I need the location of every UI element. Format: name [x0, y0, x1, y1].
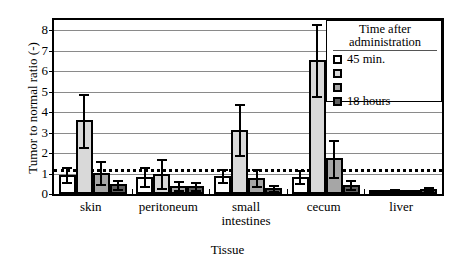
- error-bar-cap: [113, 180, 123, 182]
- error-bar-cap: [140, 167, 150, 169]
- legend-swatch: [333, 55, 342, 64]
- gridline: [54, 133, 442, 134]
- legend-title-line2: administration: [333, 36, 437, 49]
- legend-item-label: 45 min.: [347, 53, 385, 66]
- x-axis-tick-label: peritoneum: [130, 200, 208, 214]
- error-bar-cap: [329, 140, 339, 142]
- x-axis-tick-label: liver: [362, 200, 440, 214]
- error-bar-cap: [312, 24, 322, 26]
- error-bar-cap: [346, 189, 356, 191]
- legend-item: [333, 67, 437, 80]
- x-axis-tick-label: skin: [52, 200, 130, 214]
- y-axis-tick-label: 6: [18, 63, 48, 79]
- error-bar-cap: [373, 193, 383, 195]
- y-axis-tick-label: 2: [18, 145, 48, 161]
- error-bar: [161, 159, 163, 188]
- y-axis-tick-mark: [49, 133, 54, 134]
- x-axis-tick-label: cecum: [285, 200, 363, 214]
- error-bar-cap: [191, 190, 201, 192]
- gridline: [54, 112, 442, 113]
- legend: Time after administration 45 min.18 hour…: [326, 20, 442, 102]
- x-axis-tick-mark: [209, 189, 210, 194]
- y-axis-tick-mark: [49, 153, 54, 154]
- y-axis-tick-mark: [49, 92, 54, 93]
- error-bar-cap: [174, 181, 184, 183]
- error-bar-cap: [407, 192, 417, 194]
- error-bar-cap: [140, 186, 150, 188]
- error-bar-cap: [424, 190, 434, 192]
- y-axis-tick-label: 4: [18, 104, 48, 120]
- error-bar-cap: [62, 167, 72, 169]
- x-axis-title: Tissue: [0, 242, 455, 258]
- legend-swatch: [333, 97, 342, 106]
- error-bar-cap: [157, 188, 167, 190]
- error-bar-cap: [157, 159, 167, 161]
- legend-items: 45 min.18 hours: [333, 53, 437, 108]
- error-bar-cap: [312, 96, 322, 98]
- gridline: [54, 153, 442, 154]
- error-bar: [239, 104, 241, 155]
- y-axis-tick-label: 8: [18, 22, 48, 38]
- error-bar-cap: [235, 155, 245, 157]
- y-axis-tick-label: 7: [18, 43, 48, 59]
- error-bar-cap: [113, 189, 123, 191]
- legend-swatch: [333, 69, 342, 78]
- legend-item: 45 min.: [333, 53, 437, 66]
- legend-item: 18 hours: [333, 95, 437, 108]
- y-axis-tick-label: 1: [18, 166, 48, 182]
- y-axis-tick-label: 3: [18, 125, 48, 141]
- reference-line: [54, 169, 442, 172]
- chart-root: Tumor to normal ratio (-) 012345678 Tiss…: [0, 0, 455, 267]
- error-bar-cap: [252, 186, 262, 188]
- error-bar-cap: [252, 169, 262, 171]
- error-bar-cap: [269, 185, 279, 187]
- error-bar-cap: [79, 147, 89, 149]
- error-bar: [100, 161, 102, 184]
- x-axis-tick-mark: [364, 189, 365, 194]
- y-axis-tick-mark: [49, 112, 54, 113]
- error-bar-cap: [329, 177, 339, 179]
- error-bar: [333, 140, 335, 177]
- legend-title: Time after administration: [333, 23, 437, 51]
- error-bar-cap: [295, 170, 305, 172]
- error-bar-cap: [96, 161, 106, 163]
- legend-item-label: 18 hours: [347, 95, 390, 108]
- error-bar: [144, 167, 146, 185]
- y-axis-tick-mark: [49, 174, 54, 175]
- error-bar: [316, 24, 318, 96]
- error-bar-cap: [191, 182, 201, 184]
- error-bar: [66, 167, 68, 181]
- x-axis-tick-mark: [287, 189, 288, 194]
- x-axis-tick-mark: [132, 189, 133, 194]
- gridline: [54, 174, 442, 175]
- error-bar-cap: [269, 191, 279, 193]
- error-bar-cap: [346, 180, 356, 182]
- y-axis-tick-label: 0: [18, 186, 48, 202]
- error-bar-cap: [79, 94, 89, 96]
- x-axis-tick-label: smallintestines: [207, 200, 285, 228]
- error-bar: [256, 169, 258, 185]
- error-bar-cap: [62, 182, 72, 184]
- legend-swatch: [333, 83, 342, 92]
- error-bar-cap: [218, 182, 228, 184]
- y-axis-tick-mark: [49, 194, 54, 195]
- error-bar-cap: [218, 169, 228, 171]
- y-axis-tick-mark: [49, 51, 54, 52]
- y-axis-tick-mark: [49, 71, 54, 72]
- error-bar-cap: [424, 187, 434, 189]
- error-bar-cap: [174, 190, 184, 192]
- y-axis-tick-label: 5: [18, 84, 48, 100]
- error-bar-cap: [390, 192, 400, 194]
- error-bar-cap: [96, 184, 106, 186]
- error-bar-cap: [235, 104, 245, 106]
- error-bar: [83, 94, 85, 147]
- legend-item: [333, 81, 437, 94]
- error-bar-cap: [295, 183, 305, 185]
- y-axis-tick-mark: [49, 30, 54, 31]
